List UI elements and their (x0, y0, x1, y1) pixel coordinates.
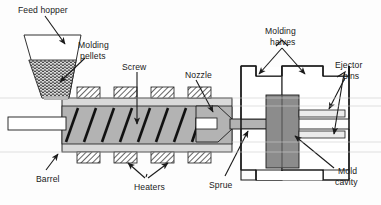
heater-block (114, 87, 137, 98)
label-molding-pellets-line1: Molding (78, 40, 109, 51)
label-ejector-pins-line2: pins (343, 71, 359, 82)
label-screw: Screw (122, 62, 146, 73)
heater-block (151, 87, 174, 98)
heater-block (77, 87, 100, 98)
heaters-bottom (77, 152, 211, 163)
heater-block (114, 152, 137, 163)
label-molding-halves-line1: Molding (265, 26, 296, 37)
heater-block (188, 87, 211, 98)
label-nozzle: Nozzle (185, 70, 212, 81)
ejector-pins (299, 110, 345, 138)
screw-shaft (8, 117, 66, 130)
label-molding-pellets-line2: pellets (80, 51, 106, 62)
label-barrel: Barrel (36, 174, 60, 185)
heater-block (188, 152, 211, 163)
label-molding-halves-line2: halves (270, 37, 295, 48)
heater-block (77, 152, 100, 163)
heaters-top (77, 87, 211, 98)
heater-block (151, 152, 174, 163)
nozzle-bore (196, 118, 217, 129)
arrow-heater-right (148, 163, 168, 178)
feed-hopper (24, 35, 81, 100)
label-heaters: Heaters (134, 182, 165, 193)
diagram-canvas: Feed hopper Molding pellets Screw Nozzle… (0, 0, 381, 205)
label-ejector-pins-line1: Ejector (335, 60, 362, 71)
label-sprue: Sprue (209, 180, 232, 191)
label-mold-cavity-line1: Mold (338, 166, 357, 177)
molding-pellets (29, 60, 76, 98)
label-feed-hopper: Feed hopper (18, 5, 68, 16)
arrow-barrel (46, 154, 58, 170)
label-mold-cavity-line2: cavity (335, 177, 358, 188)
arrow-heater-left (128, 163, 145, 178)
ejector-pin (299, 131, 345, 138)
